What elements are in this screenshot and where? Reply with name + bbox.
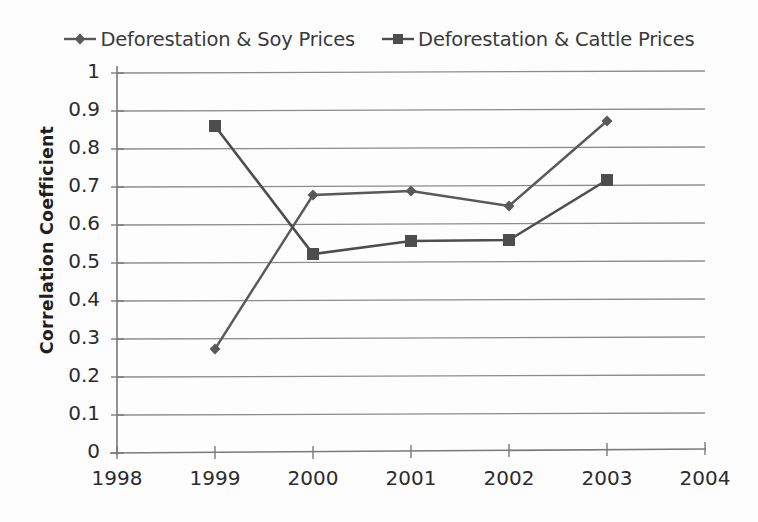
gridline-0_9	[117, 109, 705, 111]
data-point-cattle-2001	[405, 235, 417, 247]
data-point-cattle-2000	[307, 248, 319, 260]
data-point-cattle-2003	[601, 174, 613, 186]
gridline-1	[117, 71, 705, 73]
gridline-0_5	[117, 261, 705, 263]
gridline-0_3	[117, 337, 705, 339]
data-point-cattle-2002	[503, 234, 515, 246]
gridline-0_4	[117, 299, 705, 301]
data-point-cattle-1999	[209, 120, 221, 132]
plot-area	[0, 0, 758, 522]
gridline-0_6	[117, 223, 705, 225]
gridline-0_8	[117, 147, 705, 149]
x-axis-line	[110, 449, 706, 453]
gridline-0_2	[117, 375, 705, 377]
data-point-soy-2001	[406, 186, 417, 197]
gridline-0_1	[117, 413, 705, 415]
correlation-coefficient-line-chart: Deforestation & Soy Prices Deforestation…	[0, 0, 758, 522]
